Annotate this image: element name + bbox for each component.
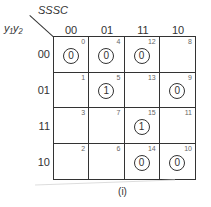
kmap-grid: 004012081511390371511126140100 [53,36,196,180]
kmap-cell: 00 [54,37,89,73]
circled-value: 0 [169,155,185,171]
decorative-line [35,180,175,186]
circled-value: 0 [98,48,114,64]
circled-value: 0 [134,155,150,171]
column-header: 10 [160,24,196,36]
circled-value: 0 [134,48,150,64]
cell-index: 6 [117,145,121,152]
cell-index: 15 [148,109,156,116]
row-header: 10 [30,156,50,168]
kmap-cell: 7 [89,108,124,144]
kmap-cell: 3 [54,108,89,144]
kmap-cell: 40 [89,37,124,73]
row-header: 11 [30,120,50,132]
row-variables-label: y₁y₂ [4,22,23,34]
figure-caption: (i) [0,186,211,197]
column-header: 11 [125,24,161,36]
kmap-cell: 6 [89,144,124,180]
circled-value: 1 [98,83,114,99]
cell-index: 10 [184,145,192,152]
kmap-cell: 90 [160,73,195,109]
circled-value: 0 [63,48,79,64]
column-header: 00 [53,24,89,36]
cell-index: 9 [188,74,192,81]
kmap-cell: 140 [125,144,160,180]
cell-index: 13 [148,74,156,81]
kmap-cell: 51 [89,73,124,109]
cell-index: 0 [81,38,85,45]
cell-index: 14 [148,145,156,152]
corner-diagonal-line [29,15,54,37]
cell-index: 4 [117,38,121,45]
cell-index: 11 [185,109,192,116]
cell-index: 3 [81,109,85,116]
row-header: 01 [30,84,50,96]
kmap-cell: 120 [125,37,160,73]
kmap-cell: 100 [160,144,195,180]
kmap-cell: 151 [125,108,160,144]
cell-index: 5 [117,74,121,81]
cell-index: 12 [148,38,156,45]
circled-value: 0 [169,83,185,99]
column-variables-label: SSSC [38,4,68,16]
cell-index: 7 [117,109,121,116]
circled-value: 1 [134,119,150,135]
kmap-cell: 1 [54,73,89,109]
column-header: 01 [89,24,125,36]
kmap-cell: 8 [160,37,195,73]
kmap-cell: 11 [160,108,195,144]
kmap-cell: 13 [125,73,160,109]
cell-index: 2 [81,145,85,152]
kmap-cell: 2 [54,144,89,180]
cell-index: 1 [81,74,85,81]
cell-index: 8 [188,38,192,45]
row-header: 00 [30,48,50,60]
